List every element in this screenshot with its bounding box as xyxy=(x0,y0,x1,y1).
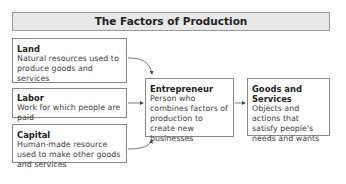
land-to-entrepreneur-arrow xyxy=(128,58,152,74)
capital-to-entrepreneur-arrow xyxy=(128,140,152,149)
flow-arrows xyxy=(0,0,346,184)
